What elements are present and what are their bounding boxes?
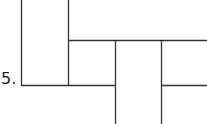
cube-net-diagram [0,0,207,124]
